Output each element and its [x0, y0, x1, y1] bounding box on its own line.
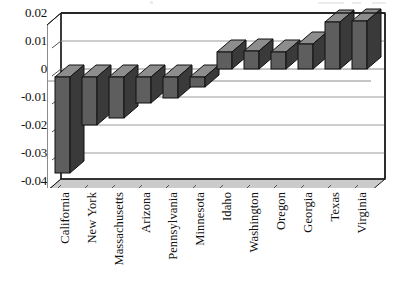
scan-artifact	[372, 2, 386, 4]
bar-front-face	[163, 77, 178, 98]
x-tick-label-massachusetts: Massachusetts	[113, 192, 126, 266]
y-tick-label: -0.03	[21, 146, 47, 159]
bar-front-face	[298, 44, 313, 69]
x-tick-label-texas: Texas	[329, 192, 342, 221]
x-tick-label-georgia: Georgia	[302, 192, 315, 233]
bar-california[interactable]	[55, 65, 84, 173]
x-tick-label-minnesota: Minnesota	[194, 192, 207, 246]
floor	[47, 179, 385, 188]
chart-screenshot: 0.02 0.01 0 -0.01 -0.02 -0.03 -0.04	[0, 0, 402, 285]
bar-front-face	[82, 77, 97, 125]
chart-svg	[47, 8, 395, 188]
y-tick-label: -0.02	[21, 118, 47, 131]
x-tick-label-california: California	[59, 192, 72, 244]
y-tick-label: -0.04	[21, 174, 47, 187]
x-axis-labels: California New York Massachusetts Arizon…	[47, 192, 395, 285]
bar-front-face	[190, 77, 205, 87]
bar-front-face	[352, 21, 367, 69]
x-tick-label-oregon: Oregon	[275, 192, 288, 230]
bar-texas[interactable]	[325, 10, 354, 69]
bar-massachusetts[interactable]	[109, 65, 138, 118]
x-tick-label-idaho: Idaho	[221, 192, 234, 221]
bar-front-face	[55, 77, 70, 173]
y-tick-label: 0.02	[25, 6, 47, 19]
x-tick-label-virginia: Virginia	[356, 192, 369, 233]
bar-virginia[interactable]	[352, 9, 381, 69]
y-tick-label: -0.01	[21, 90, 47, 103]
plot-area	[47, 8, 395, 188]
bar-front-face	[244, 51, 259, 69]
scan-artifact	[150, 1, 153, 4]
bar-front-face	[109, 77, 124, 118]
x-tick-label-washington: Washington	[248, 192, 261, 252]
y-axis: 0.02 0.01 0 -0.01 -0.02 -0.03 -0.04	[0, 0, 47, 200]
x-tick-label-arizona: Arizona	[140, 192, 153, 233]
y-tick-label: 0.01	[25, 34, 47, 47]
bar-new-york[interactable]	[82, 65, 111, 125]
bar-front-face	[271, 52, 286, 69]
x-tick-label-pennsylvania: Pennsylvania	[167, 192, 180, 260]
scan-artifact	[318, 2, 344, 4]
bar-front-face	[136, 77, 151, 103]
scan-artifact	[352, 2, 361, 4]
bar-front-face	[325, 22, 340, 69]
bar-front-face	[217, 52, 232, 69]
x-tick-label-new-york: New York	[86, 192, 99, 244]
